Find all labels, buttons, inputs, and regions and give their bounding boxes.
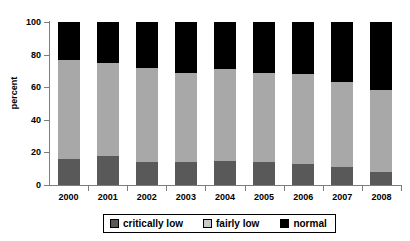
x-axis-line (49, 185, 402, 186)
bar-segment-critically-low (214, 161, 236, 185)
legend-item-normal: normal (280, 218, 326, 229)
bar-segment-critically-low (253, 162, 275, 185)
x-axis-tick (401, 186, 402, 191)
legend-label-critically-low: critically low (123, 218, 183, 229)
x-axis-tick-label: 2003 (166, 192, 206, 202)
x-axis-tick (362, 186, 363, 191)
x-axis-tick (323, 186, 324, 191)
bar-segment-fairly-low (370, 90, 392, 172)
bar-segment-critically-low (331, 167, 353, 185)
bar-segment-critically-low (370, 172, 392, 185)
bar-segment-critically-low (136, 162, 158, 185)
x-axis-tick (284, 186, 285, 191)
bar-segment-normal (58, 22, 80, 59)
bar-segment-normal (253, 22, 275, 73)
bar-column (253, 22, 275, 185)
legend-label-normal: normal (293, 218, 326, 229)
bar-column (58, 22, 80, 185)
bar-segment-critically-low (97, 156, 119, 185)
bar-column (331, 22, 353, 185)
bar-segment-normal (331, 22, 353, 82)
bar-segment-critically-low (58, 159, 80, 185)
bar-column (97, 22, 119, 185)
y-axis-tick-label: 40 (10, 115, 41, 125)
bar-segment-critically-low (292, 164, 314, 185)
x-axis-tick-label: 2002 (127, 192, 167, 202)
y-axis-tick-label: 80 (10, 50, 41, 60)
bar-column (175, 22, 197, 185)
bar-segment-normal (370, 22, 392, 90)
y-axis-tick-label: 0 (10, 180, 41, 190)
bar-segment-normal (214, 22, 236, 69)
legend-item-fairly-low: fairly low (203, 218, 259, 229)
y-axis-tick-label: 100 (10, 17, 41, 27)
x-axis-tick (245, 186, 246, 191)
legend-swatch-icon-fairly-low (203, 219, 212, 228)
x-axis-tick-label: 2006 (283, 192, 323, 202)
bar-segment-normal (175, 22, 197, 73)
bar-segment-normal (136, 22, 158, 68)
bar-segment-critically-low (175, 162, 197, 185)
y-axis-tick-label: 20 (10, 147, 41, 157)
bar-segment-fairly-low (58, 60, 80, 159)
stacked-bar-chart: percent 020406080100 2000200120022003200… (0, 0, 410, 241)
bar-column (292, 22, 314, 185)
bar-segment-normal (97, 22, 119, 63)
bar-segment-fairly-low (253, 73, 275, 163)
x-axis-tick-label: 2000 (49, 192, 89, 202)
legend-swatch-icon-normal (280, 219, 289, 228)
x-axis-tick-label: 2008 (361, 192, 401, 202)
legend-item-critically-low: critically low (110, 218, 183, 229)
x-axis-tick-label: 2001 (88, 192, 128, 202)
y-axis-tick (44, 185, 49, 186)
bar-segment-normal (292, 22, 314, 74)
bar-column (370, 22, 392, 185)
x-axis-tick-label: 2007 (322, 192, 362, 202)
bar-segment-fairly-low (175, 73, 197, 163)
x-axis-tick (127, 186, 128, 191)
legend-swatch-icon-critically-low (110, 219, 119, 228)
bar-column (214, 22, 236, 185)
y-axis-tick-label: 60 (10, 82, 41, 92)
x-axis-tick-label: 2004 (205, 192, 245, 202)
bar-segment-fairly-low (136, 68, 158, 163)
x-axis-tick-label: 2005 (244, 192, 284, 202)
chart-legend: critically low fairly low normal (103, 214, 336, 233)
plot-area (49, 22, 401, 185)
x-axis-tick (88, 186, 89, 191)
bar-segment-fairly-low (97, 63, 119, 156)
legend-label-fairly-low: fairly low (216, 218, 259, 229)
x-axis-tick (205, 186, 206, 191)
bar-segment-fairly-low (214, 69, 236, 160)
bar-column (136, 22, 158, 185)
bar-segment-fairly-low (331, 82, 353, 167)
x-axis-tick (166, 186, 167, 191)
bar-segment-fairly-low (292, 74, 314, 164)
